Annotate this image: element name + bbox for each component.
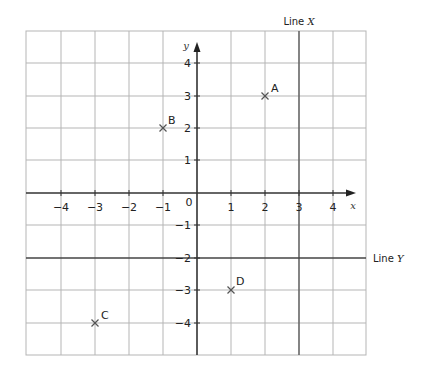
x-axis-arrow-icon	[346, 190, 356, 197]
y-tick-label: 3	[184, 90, 191, 103]
y-tick-label: 1	[184, 154, 191, 167]
x-tick-label: 1	[228, 201, 235, 214]
point-a-label: A	[271, 82, 279, 95]
x-tick-labels: −4 −3 −2 −1 1 2 3 4	[53, 201, 337, 214]
line-y-label: Line Y	[373, 253, 405, 264]
point-b-label: B	[168, 114, 176, 127]
coordinate-grid: −4 −3 −2 −1 1 2 3 4 0 x 4 3 2 1 −1 −2 −3…	[0, 0, 423, 373]
x-tick-label: −4	[53, 201, 69, 214]
x-tick-label: 4	[330, 201, 337, 214]
x-tick-label: −3	[87, 201, 103, 214]
y-axis-label: y	[182, 40, 189, 51]
y-tick-label: 2	[184, 122, 191, 135]
x-tick-label: −1	[155, 201, 171, 214]
point-c-label: C	[101, 309, 109, 322]
x-axis-label: x	[350, 200, 356, 211]
origin-label: 0	[186, 196, 193, 209]
x-tick-label: 2	[262, 201, 269, 214]
y-tick-label: 4	[184, 57, 191, 70]
y-axis-arrow-icon	[194, 42, 201, 52]
line-x-label: Line X	[283, 16, 315, 27]
point-d-label: D	[236, 275, 244, 288]
x-tick-label: 3	[296, 201, 303, 214]
y-tick-label: −2	[175, 252, 191, 265]
y-tick-label: −3	[175, 284, 191, 297]
y-tick-label: −4	[175, 317, 191, 330]
y-tick-label: −1	[175, 219, 191, 232]
x-tick-label: −2	[121, 201, 137, 214]
